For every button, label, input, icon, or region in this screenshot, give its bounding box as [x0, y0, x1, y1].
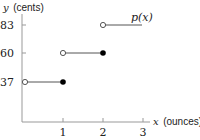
y-tick-label-83: 83: [0, 19, 14, 32]
x-tick-label-3: 3: [140, 126, 147, 139]
open-point-icon: [100, 22, 105, 27]
x-tick-label-1: 1: [60, 126, 67, 139]
closed-point-icon: [100, 50, 106, 56]
open-point-icon: [60, 50, 65, 55]
closed-point-icon: [60, 79, 66, 85]
step-chart: 83 60 37 1 2 3 y (cents) x (ounces) p(x): [0, 0, 200, 140]
y-axis-label: y (cents): [2, 2, 44, 13]
y-tick-label-60: 60: [0, 47, 14, 60]
y-tick-label-37: 37: [0, 76, 14, 89]
open-point-icon: [22, 79, 27, 84]
function-label: p(x): [131, 11, 153, 24]
x-tick-label-2: 2: [100, 126, 107, 139]
x-axis-label: x (ounces): [153, 116, 200, 127]
